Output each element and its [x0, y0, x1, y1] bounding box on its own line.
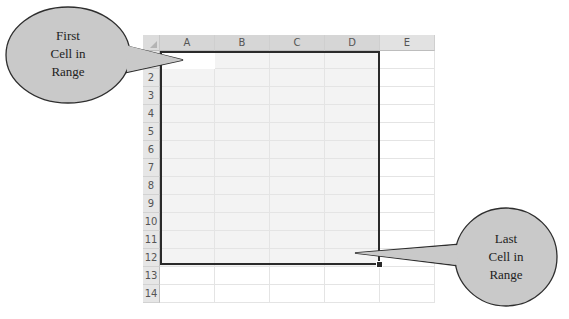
first-cell-callout: First Cell in Range — [28, 27, 108, 81]
callout-line: Range — [28, 63, 108, 81]
callout-line: Range — [466, 266, 546, 284]
last-cell-callout: Last Cell in Range — [466, 230, 546, 284]
callout-line: Cell in — [28, 45, 108, 63]
callout-line: First — [28, 27, 108, 45]
callout-line: Last — [466, 230, 546, 248]
callout-line: Cell in — [466, 248, 546, 266]
